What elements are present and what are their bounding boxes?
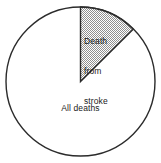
pie-slice-label-all-deaths: All deaths bbox=[0, 103, 161, 113]
pie-chart-figure: Death from stroke All deaths bbox=[0, 0, 161, 163]
pie-slice-label-line-1: Death bbox=[84, 36, 108, 46]
pie-chart-svg bbox=[0, 0, 161, 163]
pie-slice-label-line-2: from bbox=[84, 66, 108, 76]
